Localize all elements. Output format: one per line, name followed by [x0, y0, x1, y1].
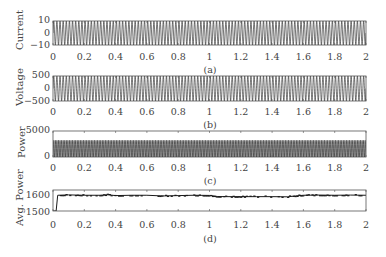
caption-a: (a)	[195, 64, 225, 75]
xtick-b-7: 1.4	[260, 106, 284, 117]
xtick-a-10: 2	[354, 51, 378, 62]
caption-c: (c)	[195, 175, 225, 186]
ytick-b-mid: 0	[10, 82, 50, 93]
xtick-a-8: 1.6	[291, 51, 315, 62]
xtick-d-7: 1.4	[260, 219, 284, 230]
xtick-c-9: 1.8	[323, 162, 347, 173]
xtick-b-0: 0	[41, 106, 65, 117]
xtick-a-3: 0.6	[135, 51, 159, 62]
xtick-a-0: 0	[41, 51, 65, 62]
ytick-a-top: 10	[10, 14, 50, 25]
plot-panel-a	[53, 21, 366, 45]
ytick-b-top: 500	[10, 69, 50, 80]
xtick-d-10: 2	[354, 219, 378, 230]
plot-panel-c	[53, 131, 366, 157]
xtick-d-0: 0	[41, 219, 65, 230]
ytick-c-top: 5000	[10, 124, 50, 135]
xtick-a-2: 0.4	[104, 51, 128, 62]
xtick-c-0: 0	[41, 162, 65, 173]
xtick-a-5: 1	[198, 51, 222, 62]
xtick-b-9: 1.8	[323, 106, 347, 117]
ytick-b-bot: −500	[10, 95, 50, 106]
caption-b: (b)	[195, 119, 225, 130]
xtick-b-3: 0.6	[135, 106, 159, 117]
xtick-b-10: 2	[354, 106, 378, 117]
xtick-b-2: 0.4	[104, 106, 128, 117]
ytick-a-mid: 0	[10, 27, 50, 38]
xtick-c-1: 0.2	[72, 162, 96, 173]
xtick-a-1: 0.2	[72, 51, 96, 62]
xtick-d-5: 1	[198, 219, 222, 230]
plot-panel-d	[53, 190, 366, 211]
xtick-d-8: 1.6	[291, 219, 315, 230]
plot-panel-b	[53, 76, 366, 101]
xtick-c-3: 0.6	[135, 162, 159, 173]
xtick-a-7: 1.4	[260, 51, 284, 62]
xtick-c-8: 1.6	[291, 162, 315, 173]
xtick-b-6: 1.2	[229, 106, 253, 117]
xtick-a-9: 1.8	[323, 51, 347, 62]
ytick-d-bot: 1500	[10, 206, 50, 217]
xtick-a-6: 1.2	[229, 51, 253, 62]
xtick-d-1: 0.2	[72, 219, 96, 230]
xtick-b-4: 0.8	[166, 106, 190, 117]
xtick-d-2: 0.4	[104, 219, 128, 230]
xtick-c-10: 2	[354, 162, 378, 173]
ytick-c-bot: 0	[10, 150, 50, 161]
xtick-b-1: 0.2	[72, 106, 96, 117]
xtick-a-4: 0.8	[166, 51, 190, 62]
ytick-a-bot: −10	[10, 39, 50, 50]
xtick-b-5: 1	[198, 106, 222, 117]
xtick-c-2: 0.4	[104, 162, 128, 173]
xtick-c-7: 1.4	[260, 162, 284, 173]
xtick-d-9: 1.8	[323, 219, 347, 230]
xtick-c-5: 1	[198, 162, 222, 173]
xtick-b-8: 1.6	[291, 106, 315, 117]
xtick-c-4: 0.8	[166, 162, 190, 173]
xtick-d-4: 0.8	[166, 219, 190, 230]
xtick-d-3: 0.6	[135, 219, 159, 230]
xtick-c-6: 1.2	[229, 162, 253, 173]
xtick-d-6: 1.2	[229, 219, 253, 230]
ytick-d-top: 1600	[10, 189, 50, 200]
caption-d: (d)	[195, 233, 225, 244]
